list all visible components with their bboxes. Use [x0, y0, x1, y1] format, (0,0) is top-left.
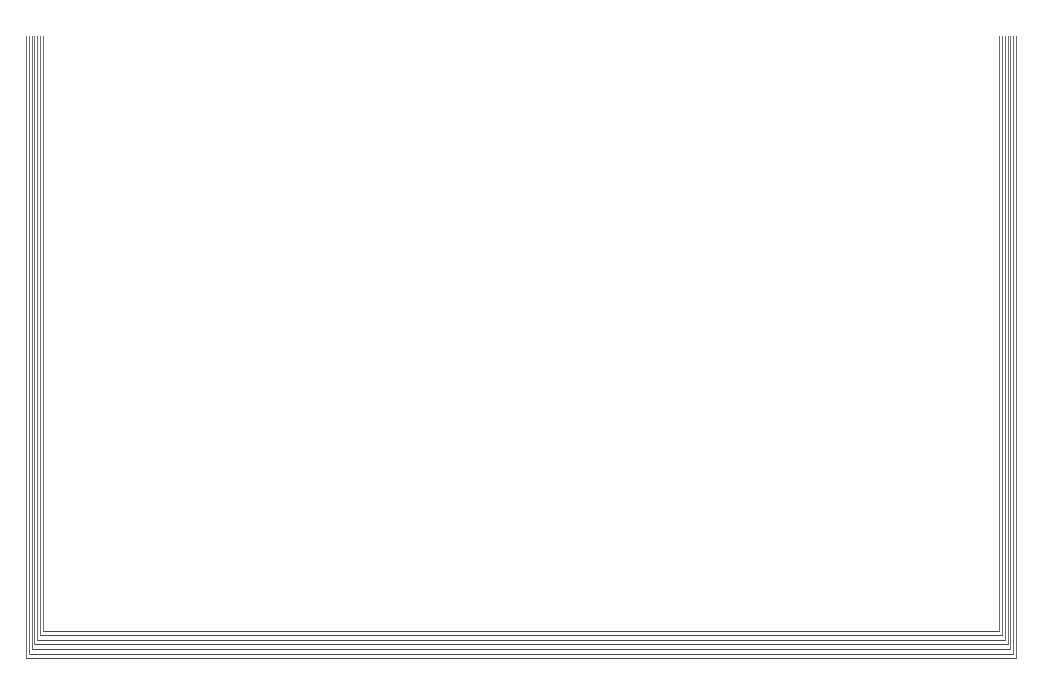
page-stack-sheet: [43, 36, 1000, 632]
page-stack: [0, 0, 1040, 697]
